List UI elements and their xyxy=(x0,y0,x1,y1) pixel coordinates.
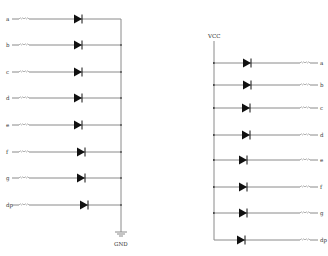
segment-label: a xyxy=(6,16,10,22)
diode-icon xyxy=(243,81,251,90)
segment-row-d: d xyxy=(6,94,122,103)
resistor-icon xyxy=(300,186,310,187)
segment-label: f xyxy=(320,184,323,190)
segment-row-f: f xyxy=(6,148,122,157)
vcc-label: VCC xyxy=(207,33,220,39)
segment-label: e xyxy=(6,122,9,128)
segment-label: d xyxy=(6,95,10,101)
diode-icon xyxy=(239,156,247,165)
resistor-icon xyxy=(300,84,310,85)
segment-label: e xyxy=(320,157,323,163)
resistor-icon xyxy=(19,71,29,72)
segment-label: dp xyxy=(320,237,328,244)
segment-row-a: a xyxy=(6,15,121,24)
resistor-icon xyxy=(300,239,310,240)
diode-icon xyxy=(74,121,82,130)
segment-row-b: b xyxy=(6,41,122,50)
diode-icon xyxy=(242,131,250,140)
resistor-icon xyxy=(300,134,310,135)
diode-icon xyxy=(239,183,247,192)
segment-row-f: f xyxy=(213,183,323,192)
resistor-icon xyxy=(300,62,310,63)
segment-label: b xyxy=(6,42,10,48)
diode-icon xyxy=(74,94,82,103)
resistor-icon xyxy=(300,159,310,160)
diode-icon xyxy=(77,148,85,157)
segment-label: d xyxy=(320,132,324,138)
segment-label: c xyxy=(320,105,323,111)
diode-icon xyxy=(74,15,82,24)
diode-icon xyxy=(74,41,82,50)
diode-icon xyxy=(237,236,245,245)
segment-row-b: b xyxy=(213,81,324,90)
segment-label: g xyxy=(320,210,324,217)
common-cathode-circuit: abcdefgdpGND xyxy=(6,15,128,248)
resistor-icon xyxy=(19,151,29,152)
diode-icon xyxy=(239,209,247,218)
resistor-icon xyxy=(19,18,29,19)
led-schematic-diagram: abcdefgdpGND VCCabcdefgdp xyxy=(0,0,328,256)
segment-row-c: c xyxy=(213,104,323,113)
segment-row-dp: dp xyxy=(214,236,328,245)
segment-label: f xyxy=(6,149,9,155)
segment-row-dp: dp xyxy=(6,201,122,210)
segment-row-e: e xyxy=(6,121,122,130)
resistor-icon xyxy=(19,97,29,98)
diode-icon xyxy=(243,59,251,68)
ground-symbol xyxy=(115,232,127,236)
segment-label: g xyxy=(6,175,10,182)
segment-row-a: a xyxy=(213,59,324,68)
diode-icon xyxy=(74,68,82,77)
diode-icon xyxy=(77,174,85,183)
segment-label: c xyxy=(6,69,9,75)
segment-row-e: e xyxy=(213,156,323,165)
gnd-label: GND xyxy=(114,241,128,247)
resistor-icon xyxy=(300,107,310,108)
common-anode-circuit: VCCabcdefgdp xyxy=(207,33,328,245)
segment-label: b xyxy=(320,82,324,88)
resistor-icon xyxy=(19,204,29,205)
segment-row-d: d xyxy=(213,131,324,140)
segment-row-c: c xyxy=(6,68,122,77)
segment-row-g: g xyxy=(213,209,324,218)
segment-row-g: g xyxy=(6,174,122,183)
resistor-icon xyxy=(19,177,29,178)
resistor-icon xyxy=(19,44,29,45)
resistor-icon xyxy=(19,124,29,125)
segment-label: a xyxy=(320,60,324,66)
diode-icon xyxy=(242,104,250,113)
resistor-icon xyxy=(300,212,310,213)
diode-icon xyxy=(80,201,88,210)
